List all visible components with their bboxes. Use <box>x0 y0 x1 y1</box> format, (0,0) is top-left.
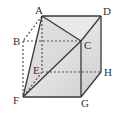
label-h: H <box>104 66 112 78</box>
label-d: D <box>103 5 111 17</box>
cube-diagram: A D B C E H F G <box>0 0 122 115</box>
label-c: C <box>84 39 91 51</box>
label-b: B <box>13 35 20 47</box>
label-a: A <box>35 4 43 16</box>
label-f: F <box>13 94 19 106</box>
label-e: E <box>33 64 40 76</box>
label-g: G <box>81 97 89 109</box>
